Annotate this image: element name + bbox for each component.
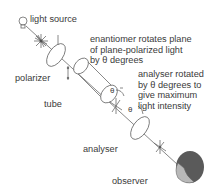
label-theta-1: θ	[110, 86, 114, 97]
label-analyser-note: analyser rotated by θ degrees to give ma…	[138, 69, 204, 111]
observer-head-icon	[176, 151, 204, 183]
unpolarized-light-icon	[34, 34, 48, 48]
label-theta-2: θ	[128, 105, 132, 116]
label-observer: observer	[112, 176, 148, 187]
label-light-source: light source	[30, 14, 77, 25]
label-enantiomer-note: enantiomer rotates plane of plane-polari…	[90, 34, 192, 66]
label-analyser: analyser	[83, 144, 118, 155]
label-polarizer: polarizer	[15, 73, 50, 84]
polarimeter-diagram: light source polarizer tube enantiomer r…	[0, 0, 215, 196]
label-tube: tube	[44, 99, 62, 110]
